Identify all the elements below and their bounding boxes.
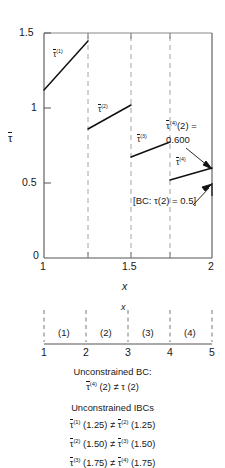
bc-lhs-base: τ: [86, 382, 90, 392]
ibc3-lhs-base: τ: [70, 458, 74, 468]
ibc1-lhs-arg: (1.25): [83, 420, 107, 430]
curve-label-2-base: τ: [98, 105, 101, 114]
element-label-2: (2): [100, 328, 112, 338]
curve-label-3-base: τ: [137, 135, 140, 144]
element-axis-title: x: [121, 303, 126, 312]
annotation-tau-sup: (4): [170, 120, 177, 126]
ibc3-rhs-base: τ: [118, 458, 122, 468]
ibc2-rhs-base: τ: [118, 439, 122, 449]
ibc1-lhs-sup: (1): [73, 419, 80, 425]
curve-label-3-base: τ: [176, 158, 179, 167]
curve-label-1-sup: (1): [56, 48, 62, 54]
curve-segment-2: [88, 105, 131, 129]
ibc3-lhs-arg: (1.75): [83, 458, 107, 468]
ibc2-lhs-arg: (1.50): [83, 439, 107, 449]
ibc2-lhs-base: τ: [70, 439, 74, 449]
x-axis-ticks: [88, 33, 170, 258]
ibc3-relation: ≠: [110, 458, 115, 468]
unconstrained-bc-heading: Unconstrained BC:: [0, 367, 225, 377]
y-axis-title-symbol: τ: [8, 133, 12, 144]
y-tick-label-0: 0: [33, 250, 39, 261]
node-label-4: 4: [167, 347, 173, 358]
element-label-3: (3): [142, 328, 154, 338]
x-tick-label-2: 2: [208, 261, 214, 272]
ibc2-rhs-sup: (3): [121, 438, 128, 444]
ibc3-rhs-sup: (4): [121, 457, 128, 463]
curve-label-2: τ(2): [98, 104, 108, 113]
annotation-arg-eq: (2) =: [177, 120, 197, 131]
plot-frame: [44, 33, 212, 258]
ibc3-lhs-sup: (3): [73, 457, 80, 463]
y-tick-label-1-5: 1.5: [19, 27, 34, 38]
unconstrained-bc-equation: τ(4) (2) ≠ τ (2): [0, 381, 225, 392]
element-label-4: (4): [184, 328, 196, 338]
bc-rhs-base: τ: [121, 382, 125, 392]
curve-segment-3: [131, 142, 170, 157]
y-axis-ticks: [44, 33, 51, 183]
ibc1-rhs-base: τ: [118, 420, 122, 430]
ibc1-relation: ≠: [110, 420, 115, 430]
unconstrained-ibc-heading: Unconstrained IBCs: [0, 403, 225, 413]
curve-label-2-sup: (2): [101, 103, 107, 109]
curve-label-1: τ(1): [53, 49, 63, 58]
ibc2-lhs-sup: (2): [73, 438, 80, 444]
node-label-5: 5: [209, 347, 215, 358]
x-axis-title: x: [122, 281, 127, 292]
node-label-2: 2: [83, 347, 89, 358]
node-label-3: 3: [125, 347, 131, 358]
ibc3-rhs-arg: (1.75): [131, 458, 155, 468]
element-solution-curves: [44, 41, 212, 180]
element-label-1: (1): [58, 328, 70, 338]
curve-label-1-base: τ: [53, 50, 56, 59]
bc-lhs-sup: (4): [90, 381, 97, 387]
curve-segment-4: [170, 168, 212, 180]
bc-lhs-arg: (2): [99, 382, 110, 392]
x-tick-label-1: 1: [40, 261, 46, 272]
y-tick-label-1: 1: [31, 102, 37, 113]
curve-label-3: τ(3): [137, 134, 147, 143]
ibc-equation-3: τ(3) (1.75) ≠ τ(4) (1.75): [0, 457, 225, 468]
ibc1-rhs-arg: (1.25): [131, 420, 155, 430]
ibc2-relation: ≠: [110, 439, 115, 449]
ibc-equation-1: τ(1) (1.25) ≠ τ(2) (1.25): [0, 419, 225, 430]
boundary-value-annotation-line1: τ(4)(2) =: [166, 121, 197, 131]
tau-bar-plot: [0, 0, 225, 290]
grid-lines: [88, 36, 170, 255]
node-label-1: 1: [41, 347, 47, 358]
curve-label-4: τ(4): [176, 157, 186, 166]
ibc-equation-2: τ(2) (1.50) ≠ τ(3) (1.50): [0, 438, 225, 449]
curve-label-4-sup: (4): [179, 156, 185, 162]
y-axis-title: τ: [8, 133, 12, 144]
ibc2-rhs-arg: (1.50): [131, 439, 155, 449]
x-tick-label-1-5: 1.5: [122, 261, 137, 272]
y-tick-label-0-5: 0.5: [22, 177, 37, 188]
ibc1-rhs-sup: (2): [121, 419, 128, 425]
ibc1-lhs-base: τ: [70, 420, 74, 430]
boundary-value-annotation-line2: 0.600: [166, 135, 190, 145]
annotation-tau-symbol: τ: [166, 121, 170, 131]
curve-segment-1: [44, 41, 88, 90]
curve-label-3-sup: (3): [140, 133, 146, 139]
bc-note: [BC: τ(2) = 0.5]: [133, 196, 196, 206]
bc-relation: ≠: [113, 382, 118, 392]
bc-rhs-arg: (2): [127, 382, 138, 392]
